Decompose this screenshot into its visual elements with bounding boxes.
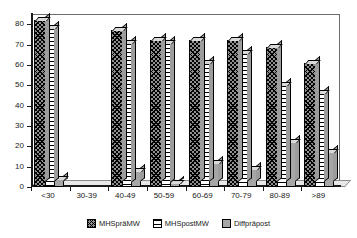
y-tick-label-30: 30: [0, 122, 24, 130]
x-tick-mark-0: [31, 187, 32, 191]
bar-group-2: [111, 14, 150, 187]
bar-chart: 80706050403020100 <3030-3940-4950-5960-6…: [0, 0, 357, 238]
x-axis-labels: <3030-3940-4950-5960-6970-7980-89>89: [31, 191, 345, 205]
bar-side-face: [45, 13, 50, 182]
x-tick-mark-4: [186, 187, 187, 191]
chart-legend: MHSpräMW MHSpostMW Diffpräpost: [0, 215, 357, 231]
x-tick-mark-5: [224, 187, 225, 191]
legend-label-post: MHSpostMW: [165, 219, 209, 228]
bar-pre-6: [266, 47, 278, 187]
solid-gray-swatch-icon: [222, 219, 231, 228]
bar-group-3: [150, 14, 189, 187]
legend-item-post: MHSpostMW: [153, 219, 209, 228]
bar-side-face: [122, 23, 127, 182]
y-axis: 80706050403020100: [0, 0, 31, 238]
legend-label-diff: Diffpräpost: [234, 219, 270, 228]
legend-item-diff: Diffpräpost: [222, 219, 270, 228]
x-tick-mark-7: [301, 187, 302, 191]
bar-side-face: [131, 36, 136, 182]
bar-pre-5: [227, 40, 239, 187]
bar-side-face: [170, 36, 175, 182]
bar-pre-7: [304, 63, 316, 187]
bars-layer: [31, 14, 340, 187]
bar-side-face: [256, 162, 261, 182]
bar-pre-2: [111, 30, 123, 187]
bar-group-4: [189, 14, 228, 187]
bar-side-face: [315, 56, 320, 182]
bar-group-1: [73, 14, 112, 187]
bar-group-7: [304, 14, 343, 187]
legend-label-pre: MHSpräMW: [99, 219, 140, 228]
y-tick-label-80: 80: [0, 20, 24, 28]
bar-side-face: [140, 164, 145, 182]
bar-side-face: [247, 46, 252, 182]
bar-side-face: [54, 21, 59, 182]
bar-group-0: [34, 14, 73, 187]
y-tick-label-0: 0: [0, 183, 24, 191]
bar-group-5: [227, 14, 266, 187]
horizontal-stripes-swatch-icon: [153, 219, 162, 228]
x-tick-mark-6: [263, 187, 264, 191]
y-tick-label-60: 60: [0, 61, 24, 69]
bar-side-face: [238, 34, 243, 182]
y-tick-label-50: 50: [0, 81, 24, 89]
y-tick-label-40: 40: [0, 102, 24, 110]
x-tick-mark-3: [147, 187, 148, 191]
bar-side-face: [324, 86, 329, 182]
bar-side-face: [286, 78, 291, 182]
bar-group-6: [266, 14, 305, 187]
bar-pre-0: [34, 20, 46, 187]
y-tick-label-10: 10: [0, 163, 24, 171]
bar-side-face: [277, 40, 282, 182]
x-tick-mark-2: [108, 187, 109, 191]
bar-side-face: [200, 34, 205, 182]
x-tick-mark-1: [70, 187, 71, 191]
bar-pre-3: [150, 40, 162, 187]
legend-item-pre: MHSpräMW: [87, 219, 140, 228]
x-tick-label-7: >89: [295, 191, 341, 201]
bar-side-face: [161, 34, 166, 182]
cross-hatch-swatch-icon: [87, 219, 96, 228]
y-tick-label-20: 20: [0, 142, 24, 150]
bar-side-face: [209, 56, 214, 182]
bar-pre-1: [73, 187, 85, 188]
y-tick-label-70: 70: [0, 41, 24, 49]
bar-pre-4: [189, 40, 201, 187]
